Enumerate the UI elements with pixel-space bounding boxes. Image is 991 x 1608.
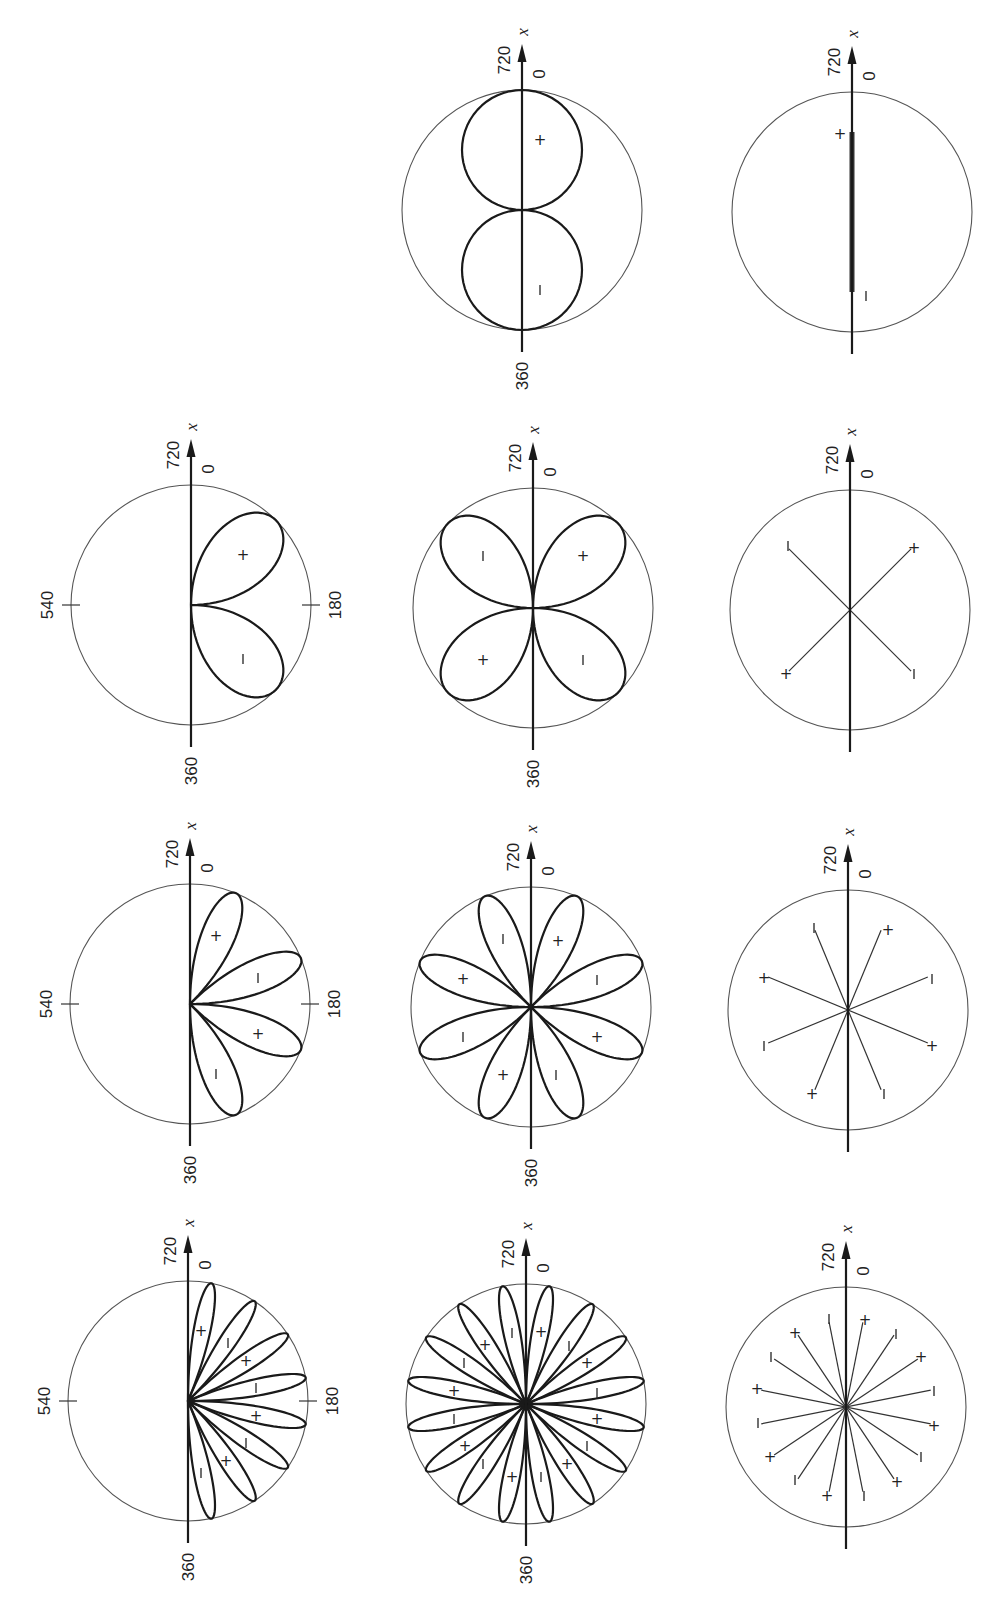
axis-variable-label: x — [517, 1222, 536, 1231]
lobe — [499, 1404, 526, 1522]
plus-sign: + — [240, 1352, 253, 1370]
label-0: 0 — [198, 863, 217, 872]
lobe — [190, 1004, 242, 1115]
lobe — [531, 896, 583, 1007]
lobe — [479, 1007, 531, 1118]
axis-variable-label: x — [181, 822, 200, 831]
plus-sign: + — [891, 1473, 904, 1491]
lobe — [526, 1286, 553, 1404]
label-0: 0 — [199, 464, 218, 473]
plus-sign: + — [751, 1380, 764, 1398]
lobe — [190, 893, 242, 1004]
plus-sign: + — [457, 970, 470, 988]
lobe — [188, 1401, 306, 1428]
panel-r2-left: x7200360540180+ — [38, 423, 345, 785]
axis-variable-label: x — [843, 30, 862, 39]
plus-sign: + — [561, 1455, 574, 1473]
axis-arrowhead-icon — [848, 46, 857, 64]
plus-sign: + — [806, 1085, 819, 1103]
lobe — [188, 1283, 215, 1401]
plus-sign: + — [479, 1336, 492, 1354]
plus-sign: + — [764, 1448, 777, 1466]
label-360: 360 — [522, 1159, 541, 1187]
lobe — [531, 1007, 583, 1118]
label-0: 0 — [534, 1263, 553, 1272]
axis-variable-label: x — [524, 426, 543, 435]
plus-sign: + — [210, 927, 223, 945]
plus-sign: + — [834, 125, 847, 143]
label-720: 720 — [495, 46, 514, 74]
lobe — [531, 955, 642, 1007]
label-180: 180 — [323, 1387, 342, 1415]
plus-sign: + — [882, 921, 895, 939]
plus-sign: + — [908, 539, 921, 557]
plus-sign: + — [195, 1322, 208, 1340]
plus-sign: + — [915, 1348, 928, 1366]
label-360: 360 — [182, 757, 201, 785]
lobe — [526, 1404, 553, 1522]
lobe — [531, 1007, 642, 1059]
axis-variable-label: x — [179, 1219, 198, 1228]
plus-sign: + — [758, 969, 771, 987]
panel-r3-left: x7200360540180++ — [37, 822, 344, 1184]
lobe — [533, 608, 625, 700]
plus-sign: + — [534, 131, 547, 149]
plus-sign: + — [250, 1407, 263, 1425]
label-540: 540 — [35, 1387, 54, 1415]
label-360: 360 — [181, 1156, 200, 1184]
label-720: 720 — [821, 846, 840, 874]
plus-sign: + — [506, 1468, 519, 1486]
axis-arrowhead-icon — [187, 439, 196, 457]
label-0: 0 — [860, 71, 879, 80]
label-0: 0 — [196, 1260, 215, 1269]
axis-arrowhead-icon — [186, 838, 195, 856]
label-360: 360 — [513, 362, 532, 390]
plus-sign: + — [780, 665, 793, 683]
lobe — [191, 605, 283, 697]
label-360: 360 — [517, 1556, 536, 1584]
panel-r3-right: x7200++++ — [728, 828, 968, 1152]
axis-arrowhead-icon — [527, 841, 536, 859]
plus-sign: + — [577, 547, 590, 565]
plus-sign: + — [459, 1437, 472, 1455]
plus-sign: + — [581, 1354, 594, 1372]
axis-variable-label: x — [182, 423, 201, 432]
label-720: 720 — [504, 843, 523, 871]
axis-variable-label: x — [513, 28, 532, 37]
label-720: 720 — [499, 1240, 518, 1268]
plus-sign: + — [477, 651, 490, 669]
panel-r1-right: x7200+ — [732, 30, 972, 354]
plus-sign: + — [552, 932, 565, 950]
label-0: 0 — [858, 469, 877, 478]
panel-r1-middle: x7200360+ — [402, 28, 642, 390]
panel-r2-right: x7200++ — [730, 428, 970, 752]
label-0: 0 — [530, 69, 549, 78]
axis-arrowhead-icon — [522, 1238, 531, 1256]
label-180: 180 — [326, 591, 345, 619]
label-720: 720 — [164, 441, 183, 469]
plus-sign: + — [591, 1028, 604, 1046]
lobe — [188, 1401, 215, 1519]
lobe — [499, 1286, 526, 1404]
plus-sign: + — [859, 1311, 872, 1329]
panel-r4-middle: x7200360++++++++ — [406, 1222, 646, 1584]
lobe — [408, 1404, 526, 1431]
polar-lobe-figure: x7200360+x7200+x7200360540180+x7200360++… — [0, 0, 991, 1608]
lobe — [408, 1377, 526, 1404]
axis-variable-label: x — [839, 828, 858, 837]
label-540: 540 — [38, 591, 57, 619]
lobe — [420, 955, 531, 1007]
label-360: 360 — [524, 760, 543, 788]
plus-sign: + — [220, 1452, 233, 1470]
lobe — [188, 1374, 306, 1401]
label-540: 540 — [37, 990, 56, 1018]
lobe — [420, 1007, 531, 1059]
label-720: 720 — [823, 446, 842, 474]
axis-variable-label: x — [522, 825, 541, 834]
panel-r4-right: x7200++++++++ — [726, 1225, 966, 1549]
lobe — [526, 1377, 644, 1404]
plus-sign: + — [237, 546, 250, 564]
panel-r2-middle: x7200360++ — [413, 426, 653, 788]
label-720: 720 — [506, 444, 525, 472]
axis-variable-label: x — [841, 428, 860, 437]
